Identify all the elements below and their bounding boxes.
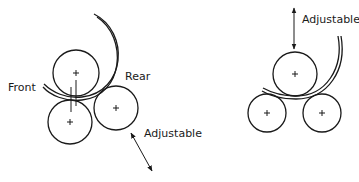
center-mark-icon [319,110,325,116]
front-label: Front [8,81,37,94]
right-assembly: Adjustable [248,8,359,132]
roller-diagram: Front Rear Adjustable Adjustable [0,0,359,182]
left-assembly: Front Rear Adjustable [8,14,202,171]
center-mark-icon [113,105,119,111]
top-roller [273,52,317,96]
front-bottom-roller [48,100,92,144]
diagram-canvas: Front Rear Adjustable Adjustable [0,0,359,182]
center-mark-icon [264,110,270,116]
bottom-left-roller [248,94,286,132]
rear-label: Rear [125,70,151,83]
rear-roller [94,86,138,130]
center-mark-icon [292,71,298,77]
center-mark-icon [73,70,79,76]
left-adjustable-label: Adjustable [144,127,202,140]
bottom-right-roller [303,94,341,132]
right-adjustable-label: Adjustable [302,13,359,26]
center-mark-icon [67,119,73,125]
